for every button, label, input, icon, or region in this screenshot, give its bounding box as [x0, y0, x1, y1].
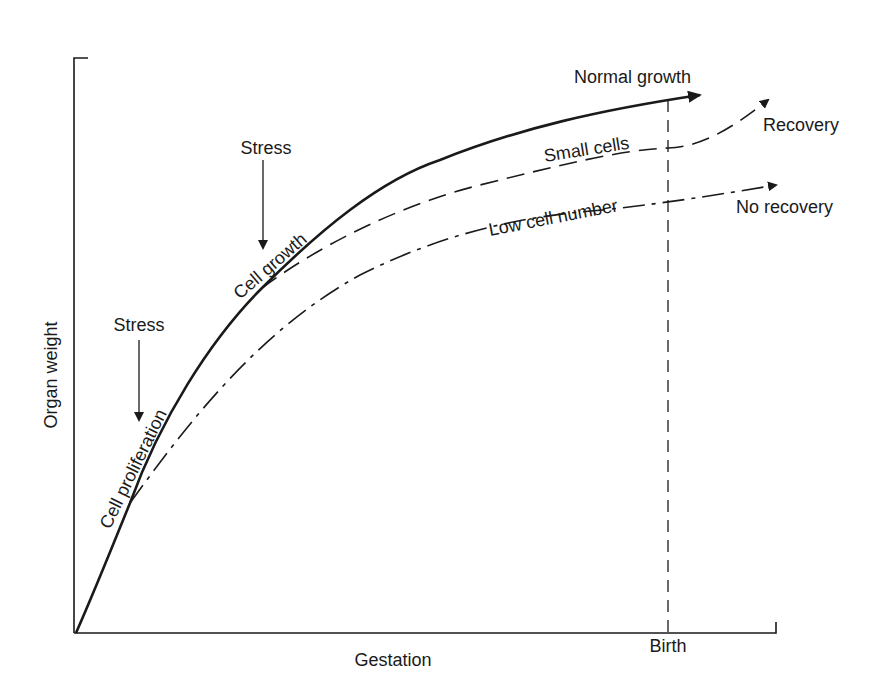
stress-label-late: Stress	[240, 138, 291, 158]
birth-label: Birth	[649, 636, 686, 656]
recovery-label: Recovery	[763, 115, 839, 135]
x-axis-label: Gestation	[354, 650, 431, 670]
x-axis	[74, 622, 776, 633]
normal-growth-curve	[76, 95, 700, 633]
small-cells-label: Small cells	[542, 133, 630, 166]
small-cells-curve	[262, 100, 768, 288]
stress-label-early: Stress	[113, 315, 164, 335]
axes	[74, 58, 776, 633]
low-cell-number-curve	[130, 185, 776, 503]
normal-growth-label: Normal growth	[574, 67, 691, 87]
cell-growth-label: Cell growth	[230, 229, 311, 303]
y-axis	[74, 58, 88, 633]
cell-proliferation-label: Cell proliferation	[96, 406, 171, 532]
low-cell-number-label: Low cell number	[487, 195, 619, 240]
y-axis-label: Organ weight	[41, 321, 61, 428]
growth-diagram: Organ weight Gestation Birth Stress Stre…	[0, 0, 886, 678]
no-recovery-label: No recovery	[736, 197, 833, 217]
